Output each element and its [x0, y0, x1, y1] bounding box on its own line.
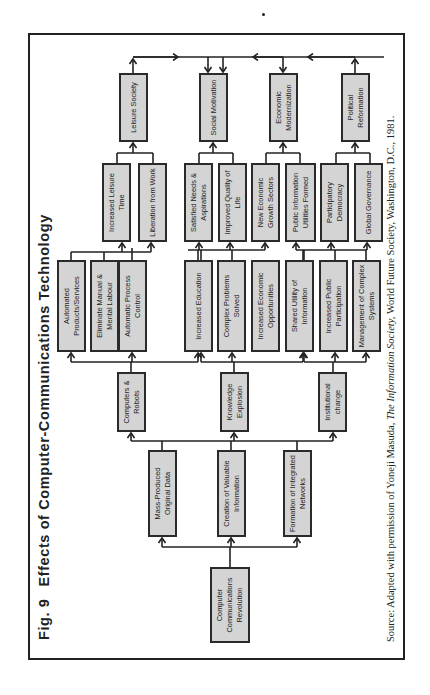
- box-increased-public-participation: Increased Public Participation: [319, 260, 348, 352]
- box-complex-problems-solved: Complex Problems Solved: [217, 260, 246, 352]
- box-institutional-change: Institutional change: [318, 372, 347, 432]
- box-mass-produced-original-data: Mass-Produced Original Data: [148, 450, 177, 537]
- box-global-governance: Global Governance: [354, 163, 383, 242]
- box-knowledge-explosion: Knowledge Explosion: [220, 372, 249, 432]
- stray-mark: [262, 13, 265, 16]
- box-leisure-society: Leisure Society: [119, 73, 148, 142]
- box-participatory-democracy: Participatory Democracy: [320, 163, 349, 242]
- box-social-motivation: Social Motivation: [199, 73, 228, 142]
- box-public-information-utilities-formed: Public Information Utilities Formed: [285, 163, 316, 242]
- box-increased-leisure-time: Increased Leisure Time: [102, 163, 131, 242]
- box-political-reformation: Political Reformation: [341, 73, 370, 142]
- box-liberation-from-work: Liberation from Work: [138, 163, 167, 242]
- box-new-economic-growth-sectors: New Economic Growth Sectors: [251, 163, 280, 242]
- box-improved-quality-of-life: Improved Quality of Life: [218, 163, 247, 242]
- box-computer-communications-revolution: Computer Communications Revolution: [210, 567, 250, 643]
- box-increased-education: Increased Education: [184, 260, 213, 352]
- box-satisfied-needs-aspirations: Satisfied Needs & Aspirations: [184, 163, 213, 242]
- box-increased-economic-opportunities: Increased Economic Opportunities: [251, 260, 280, 352]
- box-economic-modernization: Economic Modernization: [269, 73, 298, 142]
- box-creation-of-valuable-information: Creation of Valuable Information: [217, 450, 246, 537]
- box-management-of-complex-systems: Management of Complex Systems: [352, 260, 381, 352]
- box-shared-utility-of-information: Shared Utility of Information: [285, 260, 314, 352]
- diagram-figure: Fig. 9Effects of Computer-Communications…: [28, 33, 405, 660]
- box-automated-products-services: Automated Products/Services: [57, 260, 86, 352]
- box-automatic-process-control: Automatic Process Control: [118, 260, 147, 352]
- box-eliminate-manual-mental-labour: Eliminate Manual & Mental Labour: [90, 260, 119, 352]
- box-formation-of-integrated-networks: Formation of Integrated Networks: [283, 450, 312, 537]
- box-computers-and-robots: Computers & Robots: [117, 372, 146, 432]
